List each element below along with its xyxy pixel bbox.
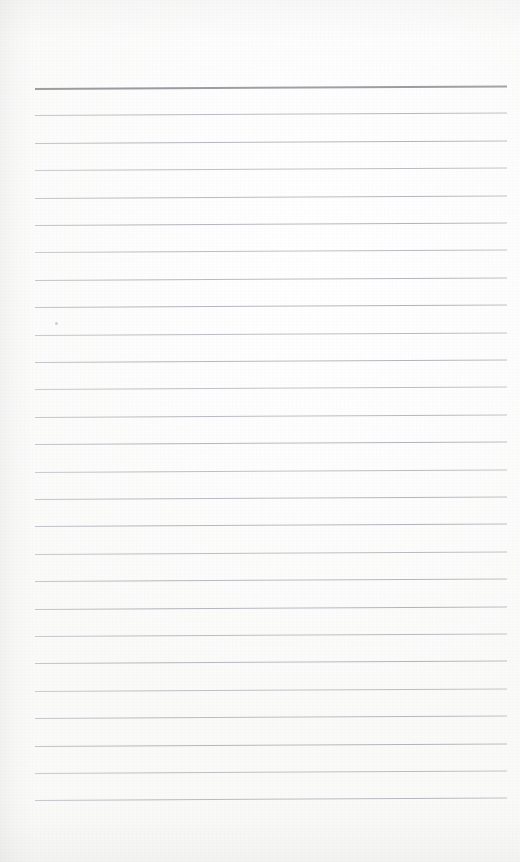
ruled-line [35, 770, 507, 774]
ruled-line [35, 168, 507, 172]
ruled-line [35, 332, 507, 336]
ruled-line [35, 716, 507, 720]
ruled-line [35, 277, 507, 281]
ruled-line [35, 442, 507, 446]
ruled-line [35, 250, 507, 254]
ruled-line [35, 524, 507, 528]
ruled-line [35, 743, 507, 747]
ruled-line [35, 661, 507, 665]
ruled-line [35, 798, 507, 802]
ruled-line [35, 195, 507, 199]
ruled-line [35, 305, 507, 309]
ruled-line [35, 633, 507, 637]
ruled-lines-group [0, 0, 520, 862]
ruled-line [35, 359, 507, 363]
ruled-line [35, 387, 507, 391]
ruled-line [35, 496, 507, 500]
ruled-line [35, 606, 507, 610]
scanned-page [0, 0, 520, 862]
ruled-line [35, 140, 507, 144]
ruled-line [35, 222, 507, 226]
header-ruled-line [35, 85, 507, 90]
ruled-line [35, 414, 507, 418]
ruled-line [35, 688, 507, 692]
ruled-line [35, 113, 507, 117]
ruled-line [35, 469, 507, 473]
ruled-line [35, 579, 507, 583]
ruled-line [35, 551, 507, 555]
